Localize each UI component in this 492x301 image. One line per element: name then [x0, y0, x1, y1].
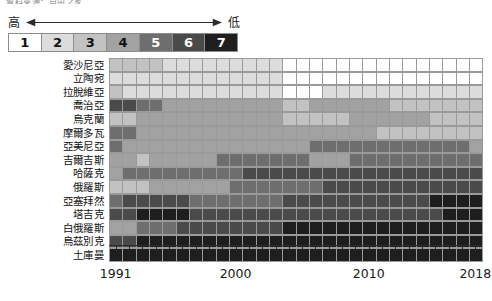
heatmap-cell[interactable] [257, 167, 270, 181]
legend-swatch-7[interactable]: 7 [205, 34, 237, 51]
heatmap-cell[interactable] [243, 221, 256, 235]
heatmap-cell[interactable] [310, 58, 323, 72]
heatmap-cell[interactable] [150, 126, 163, 140]
heatmap-cell[interactable] [297, 99, 310, 113]
heatmap-cell[interactable] [190, 153, 203, 167]
legend-swatch-1[interactable]: 1 [9, 34, 42, 51]
heatmap-cell[interactable] [390, 153, 403, 167]
heatmap-cell[interactable] [110, 180, 123, 194]
heatmap-cell[interactable] [270, 72, 283, 86]
heatmap-cell[interactable] [323, 221, 336, 235]
heatmap-cell[interactable] [443, 194, 456, 208]
heatmap-cell[interactable] [257, 72, 270, 86]
heatmap-cell[interactable] [257, 194, 270, 208]
heatmap-cell[interactable] [323, 180, 336, 194]
heatmap-cell[interactable] [283, 112, 296, 126]
heatmap-cell[interactable] [243, 208, 256, 222]
heatmap-cell[interactable] [150, 167, 163, 181]
heatmap-cell[interactable] [337, 194, 350, 208]
legend-swatch-4[interactable]: 4 [107, 34, 140, 51]
heatmap-cell[interactable] [217, 140, 230, 154]
heatmap-cell[interactable] [177, 180, 190, 194]
heatmap-cell[interactable] [363, 194, 376, 208]
heatmap-cell[interactable] [403, 140, 416, 154]
heatmap-cell[interactable] [470, 221, 483, 235]
heatmap-cell[interactable] [323, 112, 336, 126]
heatmap-cell[interactable] [297, 153, 310, 167]
heatmap-cell[interactable] [123, 208, 136, 222]
heatmap-cell[interactable] [217, 208, 230, 222]
heatmap-cell[interactable] [217, 221, 230, 235]
heatmap-cell[interactable] [163, 99, 176, 113]
heatmap-cell[interactable] [123, 72, 136, 86]
heatmap-cell[interactable] [363, 72, 376, 86]
heatmap-cell[interactable] [390, 221, 403, 235]
heatmap-cell[interactable] [310, 140, 323, 154]
heatmap-cell[interactable] [203, 153, 216, 167]
heatmap-cell[interactable] [257, 140, 270, 154]
heatmap-cell[interactable] [243, 99, 256, 113]
heatmap-cell[interactable] [363, 85, 376, 99]
heatmap-cell[interactable] [350, 180, 363, 194]
heatmap-cell[interactable] [243, 194, 256, 208]
heatmap-cell[interactable] [297, 112, 310, 126]
heatmap-cell[interactable] [163, 140, 176, 154]
heatmap-cell[interactable] [123, 167, 136, 181]
heatmap-cell[interactable] [337, 180, 350, 194]
heatmap-cell[interactable] [190, 58, 203, 72]
heatmap-cell[interactable] [297, 85, 310, 99]
heatmap-cell[interactable] [470, 126, 483, 140]
heatmap-cell[interactable] [137, 194, 150, 208]
heatmap-cell[interactable] [110, 85, 123, 99]
heatmap-cell[interactable] [230, 126, 243, 140]
heatmap-cell[interactable] [390, 72, 403, 86]
heatmap-cell[interactable] [363, 126, 376, 140]
heatmap-cell[interactable] [337, 221, 350, 235]
heatmap-cell[interactable] [190, 99, 203, 113]
heatmap-cell[interactable] [270, 140, 283, 154]
heatmap-cell[interactable] [190, 112, 203, 126]
heatmap-cell[interactable] [177, 167, 190, 181]
heatmap-cell[interactable] [177, 85, 190, 99]
heatmap-cell[interactable] [190, 140, 203, 154]
heatmap-cell[interactable] [243, 140, 256, 154]
heatmap-cell[interactable] [217, 58, 230, 72]
heatmap-cell[interactable] [417, 99, 430, 113]
heatmap-cell[interactable] [323, 194, 336, 208]
heatmap-cell[interactable] [243, 58, 256, 72]
heatmap-cell[interactable] [243, 167, 256, 181]
heatmap-cell[interactable] [150, 180, 163, 194]
heatmap-cell[interactable] [163, 126, 176, 140]
heatmap-cell[interactable] [297, 58, 310, 72]
heatmap-cell[interactable] [190, 85, 203, 99]
heatmap-cell[interactable] [177, 221, 190, 235]
heatmap-cell[interactable] [150, 72, 163, 86]
heatmap-cell[interactable] [203, 58, 216, 72]
heatmap-cell[interactable] [390, 112, 403, 126]
heatmap-cell[interactable] [150, 140, 163, 154]
heatmap-cell[interactable] [190, 221, 203, 235]
heatmap-cell[interactable] [163, 153, 176, 167]
heatmap-cell[interactable] [270, 112, 283, 126]
heatmap-cell[interactable] [257, 180, 270, 194]
heatmap-cell[interactable] [270, 126, 283, 140]
heatmap-cell[interactable] [163, 194, 176, 208]
heatmap-cell[interactable] [430, 208, 443, 222]
heatmap-cell[interactable] [323, 126, 336, 140]
heatmap-cell[interactable] [217, 99, 230, 113]
heatmap-cell[interactable] [350, 112, 363, 126]
heatmap-cell[interactable] [270, 167, 283, 181]
heatmap-cell[interactable] [230, 180, 243, 194]
legend-swatch-5[interactable]: 5 [140, 34, 173, 51]
heatmap-cell[interactable] [310, 72, 323, 86]
heatmap-cell[interactable] [417, 140, 430, 154]
heatmap-cell[interactable] [390, 99, 403, 113]
heatmap-cell[interactable] [377, 58, 390, 72]
heatmap-cell[interactable] [457, 180, 470, 194]
heatmap-cell[interactable] [203, 194, 216, 208]
heatmap-cell[interactable] [217, 180, 230, 194]
heatmap-cell[interactable] [443, 208, 456, 222]
heatmap-cell[interactable] [230, 99, 243, 113]
heatmap-cell[interactable] [470, 180, 483, 194]
heatmap-cell[interactable] [243, 112, 256, 126]
